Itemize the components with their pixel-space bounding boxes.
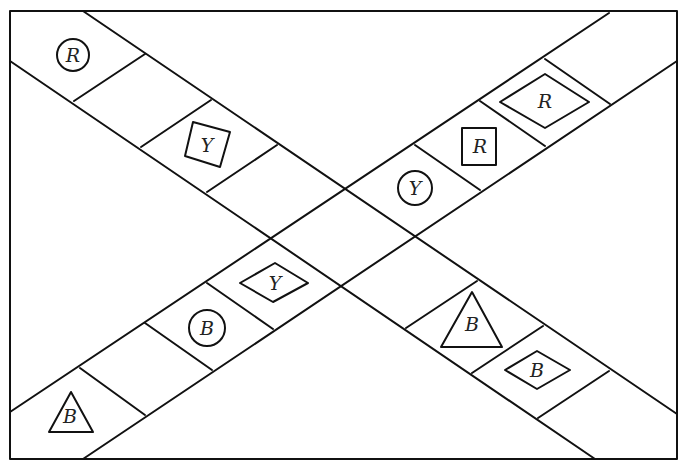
- band-edge: [83, 11, 677, 414]
- band-descending: [10, 11, 677, 459]
- token-triangle-b: B: [49, 392, 93, 432]
- token-label: R: [472, 135, 487, 157]
- band-edge: [83, 61, 677, 459]
- tokens: RYYRRYBBBB: [49, 39, 589, 432]
- bands: [10, 11, 677, 459]
- cell-divider: [80, 368, 145, 415]
- crossing-bands-diagram: RYYRRYBBBB: [0, 0, 685, 462]
- token-diamond-r: R: [500, 74, 589, 128]
- token-circle-b: B: [189, 310, 225, 346]
- token-diamond-b: B: [505, 351, 570, 389]
- token-circle-r: R: [57, 39, 89, 71]
- token-tilted-square-y: Y: [185, 122, 230, 167]
- token-label: B: [62, 405, 77, 427]
- band-edge: [10, 13, 609, 412]
- token-label: R: [65, 44, 80, 66]
- token-label: B: [199, 317, 214, 339]
- token-label: R: [537, 90, 552, 112]
- token-circle-y: Y: [398, 171, 432, 205]
- token-triangle-b: B: [441, 292, 502, 347]
- token-label: B: [464, 313, 479, 335]
- token-label: B: [529, 359, 544, 381]
- token-square-r: R: [462, 128, 496, 165]
- token-diamond-y: Y: [240, 263, 308, 302]
